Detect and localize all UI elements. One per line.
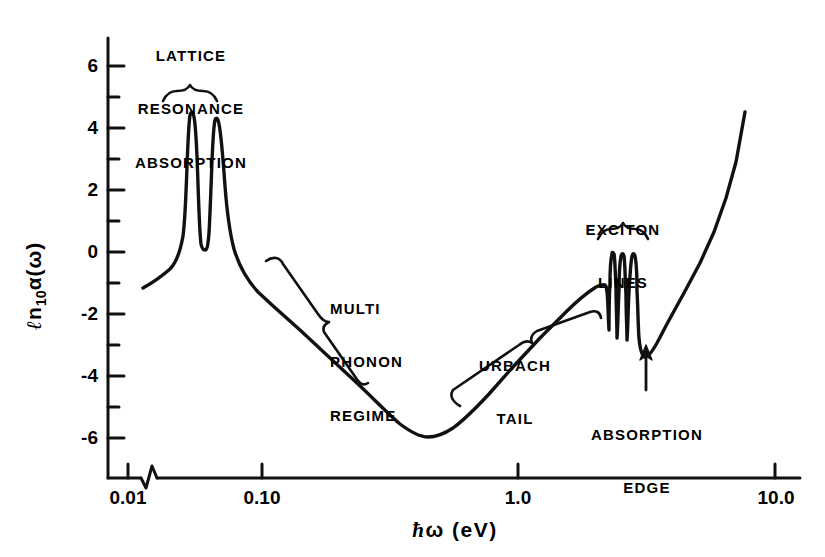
- y-axis-base-10: 10: [33, 290, 49, 306]
- x-axis-units: (eV): [452, 518, 498, 541]
- y-tick-label-minus-2: -2: [50, 303, 98, 325]
- x-tick-label-0-10: 0.10: [222, 487, 302, 509]
- y-tick-label-4: 4: [58, 117, 98, 139]
- annotation-urbach-tail: URBACH TAIL: [463, 322, 567, 464]
- annotation-urbach-line1: URBACH: [463, 357, 567, 375]
- annotation-exciton-line2: LINES: [569, 274, 677, 292]
- hbar-symbol: ħ: [412, 518, 425, 542]
- annotation-multiphonon: MULTI PHONON REGIME: [330, 265, 440, 460]
- annotation-absorption-edge-line1: ABSORPTION: [578, 426, 716, 444]
- y-axis-title: ℓn10α(ω): [22, 242, 50, 330]
- script-l-symbol: ℓ: [22, 320, 46, 330]
- annotation-exciton-line1: EXCITON: [569, 221, 677, 239]
- annotation-multiphonon-line3: REGIME: [330, 407, 440, 425]
- annotation-multiphonon-line1: MULTI: [330, 300, 440, 318]
- x-tick-label-0-01: 0.01: [88, 487, 168, 509]
- y-tick-label-6: 6: [58, 55, 98, 77]
- y-tick-label-minus-4: -4: [50, 365, 98, 387]
- omega-symbol: ω: [425, 518, 444, 541]
- annotation-absorption-edge: ABSORPTION EDGE: [578, 391, 716, 533]
- annotation-absorption-edge-line2: EDGE: [578, 479, 716, 497]
- annotation-urbach-line2: TAIL: [463, 410, 567, 428]
- x-axis-break-symbol: [141, 466, 157, 488]
- y-tick-label-0: 0: [58, 241, 98, 263]
- annotation-exciton-lines: EXCITON LINES: [569, 186, 677, 328]
- x-axis-title: ħω (eV): [345, 518, 565, 543]
- annotation-lattice-line2: RESONANCE: [112, 100, 270, 118]
- x-tick-label-10-0: 10.0: [734, 487, 818, 509]
- figure-container: LATTICE RESONANCE ABSORPTION MULTI PHONO…: [0, 0, 825, 557]
- annotation-lattice-line1: LATTICE: [112, 47, 270, 65]
- annotation-multiphonon-line2: PHONON: [330, 353, 440, 371]
- x-tick-label-1-0: 1.0: [480, 487, 556, 509]
- y-axis-n: n: [22, 306, 45, 320]
- y-tick-label-2: 2: [58, 179, 98, 201]
- annotation-lattice-resonance: LATTICE RESONANCE ABSORPTION: [112, 12, 270, 207]
- alpha-omega-symbol: α(ω): [22, 242, 45, 291]
- annotation-lattice-line3: ABSORPTION: [112, 154, 270, 172]
- y-tick-label-minus-6: -6: [50, 427, 98, 449]
